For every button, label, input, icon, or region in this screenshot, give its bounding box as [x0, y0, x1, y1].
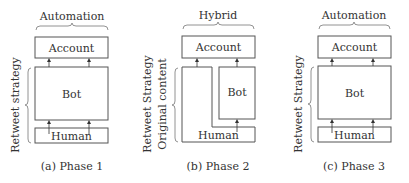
top-label: Automation: [39, 10, 105, 23]
top-brace: [319, 22, 390, 29]
side-brace: [308, 67, 314, 142]
human-label: Human: [51, 130, 92, 143]
panel-phase-2: Hybrid Account Human Bot Retweet Strateg…: [141, 9, 255, 173]
side-label: Retweet Strategy: [292, 54, 305, 152]
side-label: Original content: [156, 58, 169, 150]
caption: (a) Phase 1: [41, 160, 103, 173]
account-label: Account: [195, 41, 242, 54]
caption: (c) Phase 3: [323, 160, 385, 173]
side-label: Retweet strategy: [9, 56, 22, 152]
top-label: Hybrid: [199, 9, 238, 22]
account-label: Account: [331, 41, 378, 54]
human-label: Human: [334, 129, 375, 142]
panel-phase-3: Automation Account Bot Human Retweet Str…: [292, 9, 391, 173]
human-label: Human: [198, 129, 239, 142]
account-label: Account: [48, 42, 95, 55]
side-label: Retweet Strategy: [141, 54, 154, 152]
top-brace: [36, 23, 108, 30]
top-label: Automation: [321, 9, 387, 22]
panel-phase-1: Automation Account Bot Human Retweet str…: [9, 10, 108, 173]
side-brace: [172, 68, 178, 142]
caption: (b) Phase 2: [187, 160, 250, 173]
phase-diagram: Automation Account Bot Human Retweet str…: [0, 0, 409, 183]
bot-label: Bot: [345, 87, 365, 100]
top-brace: [183, 22, 254, 29]
side-brace: [25, 68, 31, 143]
bot-label: Bot: [227, 86, 247, 99]
bot-label: Bot: [62, 88, 82, 101]
